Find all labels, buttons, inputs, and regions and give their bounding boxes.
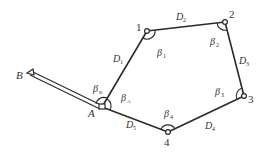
node-2-marker (223, 20, 228, 25)
svg-text:β: β (156, 47, 162, 58)
node-A-marker (99, 104, 105, 109)
edge-D2 (147, 22, 225, 31)
svg-text:5: 5 (133, 125, 136, 131)
angle-label-beta-A: β A (120, 92, 131, 104)
svg-text:β: β (214, 86, 220, 97)
svg-text:B: B (99, 90, 103, 95)
edge-label-D1: D 1 (112, 53, 123, 65)
node-1-marker (145, 29, 150, 34)
angle-label-beta-1: β 1 (156, 47, 166, 59)
svg-text:1: 1 (120, 59, 123, 65)
angle-label-beta-2: β 2 (209, 36, 219, 48)
svg-text:β: β (163, 108, 169, 119)
known-side-BA (30, 71, 101, 109)
svg-text:β: β (92, 83, 98, 94)
svg-text:4: 4 (170, 114, 173, 120)
svg-text:2: 2 (183, 17, 186, 23)
node-1-label: 1 (136, 21, 142, 33)
svg-text:A: A (127, 99, 131, 104)
edge-label-D3: D 3 (238, 55, 249, 67)
node-4-label: 4 (164, 136, 170, 148)
svg-text:β: β (209, 36, 215, 47)
svg-text:4: 4 (212, 126, 215, 132)
svg-text:1: 1 (163, 53, 166, 59)
edge-label-D4: D 4 (204, 120, 215, 132)
node-B-label: B (16, 69, 23, 81)
svg-text:β: β (120, 92, 126, 103)
svg-text:3: 3 (221, 92, 224, 98)
node-3-marker (242, 94, 247, 99)
edge-label-D2: D 2 (175, 11, 186, 23)
angle-label-beta-4: β 4 (163, 108, 173, 120)
svg-text:2: 2 (216, 42, 219, 48)
node-A-label: A (87, 107, 95, 119)
angle-arc-beta-4 (161, 125, 175, 129)
node-4-marker (166, 130, 171, 135)
angle-label-beta-3: β 3 (214, 86, 224, 98)
node-B-marker (27, 69, 34, 75)
traverse-diagram: B A 1 2 3 4 D 1 D 2 D 3 D 4 D 5 β B β A … (0, 0, 267, 160)
node-3-label: 3 (248, 93, 254, 105)
angle-label-beta-B: β B (92, 83, 103, 95)
node-2-label: 2 (229, 8, 235, 20)
svg-text:3: 3 (246, 61, 249, 67)
edge-label-D5: D 5 (125, 119, 136, 131)
